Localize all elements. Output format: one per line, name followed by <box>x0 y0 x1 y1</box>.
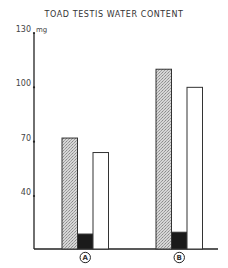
bar-b-black <box>172 232 188 249</box>
bar-b-stippled <box>156 69 172 249</box>
bar-chart: 4070100130mg AB <box>0 0 228 268</box>
category-label: B <box>177 254 182 262</box>
bar-a-white <box>93 153 109 249</box>
y-tick-label: 40 <box>21 188 31 197</box>
y-tick <box>33 141 35 143</box>
y-tick <box>33 86 35 88</box>
y-tick-label: 130 <box>16 25 31 34</box>
category-label: A <box>83 254 89 262</box>
y-tick <box>33 195 35 197</box>
bar-a-black <box>78 234 94 249</box>
y-tick-label: 70 <box>21 134 31 143</box>
bar-a-stippled <box>62 138 78 249</box>
bar-b-white <box>187 87 203 249</box>
y-tick-label: 100 <box>16 79 31 88</box>
y-tick <box>33 32 35 34</box>
y-unit-label: mg <box>36 26 47 34</box>
bars <box>62 69 203 249</box>
category-labels: AB <box>80 252 184 262</box>
